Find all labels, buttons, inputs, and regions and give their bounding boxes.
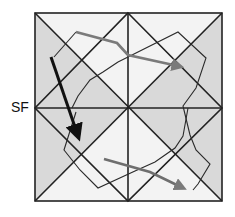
sf-label: SF — [11, 99, 29, 115]
pattern-diagram: SF — [0, 0, 235, 217]
